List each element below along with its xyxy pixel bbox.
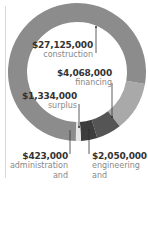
- construction-value: $27,125,000: [32, 40, 93, 50]
- construction-name: construction: [32, 50, 93, 59]
- surplus-name: surplus: [22, 101, 77, 110]
- label-construction: $27,125,000 construction: [32, 40, 93, 60]
- engineering-line1: engineering: [92, 161, 148, 170]
- admin-line1: administration: [0, 161, 68, 170]
- label-engineering: $2,050,000 engineering and inspection: [92, 151, 148, 180]
- label-admin: $423,000 administration and preliminarie…: [0, 151, 68, 180]
- financing-name: financing: [57, 78, 112, 87]
- label-financing: $4,068,000 financing: [57, 68, 112, 88]
- admin-value: $423,000: [0, 151, 68, 161]
- label-surplus: $1,334,000 surplus: [22, 91, 77, 111]
- financing-value: $4,068,000: [57, 68, 112, 78]
- engineering-value: $2,050,000: [92, 151, 148, 161]
- admin-line2: and preliminaries: [0, 171, 68, 180]
- engineering-line2: and inspection: [92, 171, 148, 180]
- surplus-value: $1,334,000: [22, 91, 77, 101]
